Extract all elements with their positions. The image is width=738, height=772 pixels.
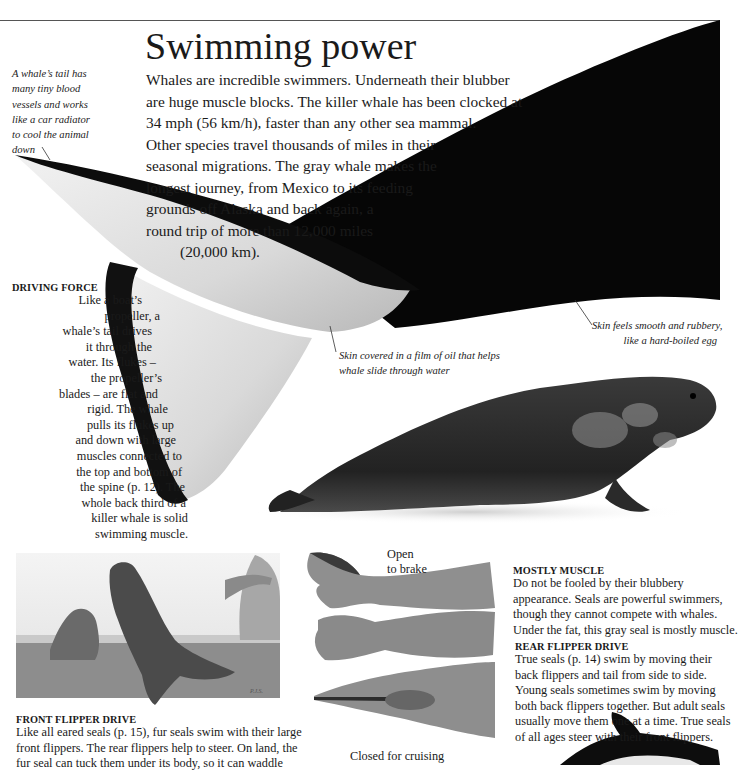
body-line: killer whale is solid	[12, 511, 190, 527]
body-line: front flippers. The rear flippers help t…	[16, 741, 302, 757]
label-line: Open	[387, 547, 427, 562]
mostly-muscle-section: MOSTLY MUSCLE Do not be fooled by their …	[513, 565, 738, 638]
fur-seals-painting: P.J.S.	[16, 553, 280, 705]
caption-line: vessels and works	[12, 97, 92, 112]
caption-line: like a hard-boiled egg	[592, 333, 717, 348]
body-line: Young seals sometimes swim by moving	[515, 683, 731, 699]
body-line: whole back third of a	[12, 496, 190, 512]
body-line: of all ages steer with their front flipp…	[515, 730, 731, 746]
section-heading: FRONT FLIPPER DRIVE	[16, 714, 302, 725]
section-body: Like all eared seals (p. 15), fur seals …	[16, 725, 302, 772]
caption-line: like a car radiator	[12, 112, 92, 127]
intro-paragraph: Whales are incredible swimmers. Undernea…	[146, 69, 522, 263]
skin-smooth-caption: Skin feels smooth and rubbery, like a ha…	[592, 318, 717, 349]
body-line: Under the fat, this gray seal is mostly …	[513, 623, 738, 639]
body-line: appearance. Seals are powerful swimmers,	[513, 592, 738, 608]
section-body: Like a boat’s propeller, a whale’s tail …	[12, 293, 190, 543]
body-line: the spine (p. 12). The	[12, 480, 190, 496]
body-line: blades – are flat and	[12, 387, 190, 403]
section-body: True seals (p. 14) swim by moving their …	[515, 652, 731, 746]
body-line: though they cannot compete with whales.	[513, 607, 738, 623]
caption-line: down	[12, 142, 92, 157]
body-line: back flippers and tail from side to side…	[515, 668, 731, 684]
intro-line: grounds off Alaska and back again, a	[146, 198, 522, 220]
page-title: Swimming power	[145, 24, 416, 68]
body-line: rigid. The whale	[12, 402, 190, 418]
body-line: water. Its flukes –	[12, 355, 190, 371]
body-line: True seals (p. 14) swim by moving their	[515, 652, 731, 668]
section-body: Do not be fooled by their blubbery appea…	[513, 576, 738, 638]
section-heading: MOSTLY MUSCLE	[513, 565, 738, 576]
body-line: usually move them one at a time. True se…	[515, 714, 731, 730]
caption-line: whale slide through water	[339, 363, 500, 378]
seal-flippers-drawing	[307, 552, 495, 738]
intro-line: Whales are incredible swimmers. Undernea…	[146, 69, 522, 91]
intro-line: Other species travel thousands of miles …	[146, 134, 522, 156]
body-line: muscles connected to	[12, 449, 190, 465]
caption-line: A whale’s tail has	[12, 66, 92, 81]
body-line: swimming muscle.	[12, 527, 190, 543]
intro-line: round trip of more than 12,000 miles	[146, 220, 522, 242]
gray-seal-image	[250, 377, 716, 524]
caption-line: Skin covered in a film of oil that helps	[339, 348, 500, 363]
svg-text:P.J.S.: P.J.S.	[249, 688, 263, 694]
body-line: the propeller’s	[12, 371, 190, 387]
body-line: propeller, a	[12, 309, 190, 325]
body-line: the top and bottom of	[12, 465, 190, 481]
body-line: it through the	[12, 340, 190, 356]
body-line: Like a boat’s	[12, 293, 190, 309]
body-line: Do not be fooled by their blubbery	[513, 576, 738, 592]
skin-oil-caption: Skin covered in a film of oil that helps…	[339, 348, 500, 379]
section-heading: REAR FLIPPER DRIVE	[515, 641, 731, 652]
intro-line: are huge muscle blocks. The killer whale…	[146, 91, 522, 113]
caption-line: many tiny blood	[12, 81, 92, 96]
body-line: and down with large	[12, 433, 190, 449]
body-line: pulls its flukes up	[12, 418, 190, 434]
body-line: both back flippers together. But adult s…	[515, 699, 731, 715]
body-line: Like all eared seals (p. 15), fur seals …	[16, 725, 302, 741]
intro-line: 34 mph (56 km/h), faster than any other …	[146, 112, 522, 134]
body-line: whale’s tail drives	[12, 324, 190, 340]
intro-line: (20,000 km).	[146, 241, 522, 263]
open-to-brake-label: Open to brake	[387, 547, 427, 576]
section-heading: DRIVING FORCE	[12, 282, 190, 293]
intro-line: seasonal migrations. The gray whale make…	[146, 155, 522, 177]
intro-line: longest journey, from Mexico to its feed…	[146, 177, 522, 199]
closed-for-cruising-label: Closed for cruising	[350, 749, 444, 764]
caption-line: to cool the animal	[12, 127, 92, 142]
front-flipper-drive-section: FRONT FLIPPER DRIVE Like all eared seals…	[16, 714, 302, 772]
label-line: to brake	[387, 562, 427, 577]
driving-force-section: DRIVING FORCE Like a boat’s propeller, a…	[12, 282, 190, 543]
body-line: fur seal can tuck them under its body, s…	[16, 756, 302, 772]
rear-flipper-drive-section: REAR FLIPPER DRIVE True seals (p. 14) sw…	[515, 641, 731, 746]
caption-line: Skin feels smooth and rubbery,	[592, 318, 717, 333]
tail-radiator-caption: A whale’s tail has many tiny blood vesse…	[12, 66, 92, 158]
